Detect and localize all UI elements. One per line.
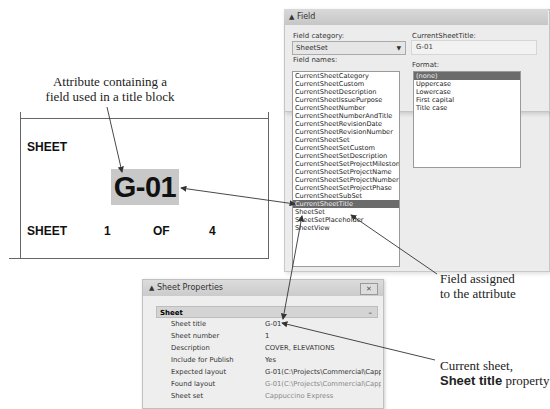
arrow-field-assigned: [351, 215, 437, 274]
arrow-attribute: [107, 107, 122, 172]
arrow-g01-to-field: [181, 188, 295, 204]
arrow-field-to-sheet: [283, 216, 302, 319]
arrow-current-sheet: [282, 323, 435, 360]
